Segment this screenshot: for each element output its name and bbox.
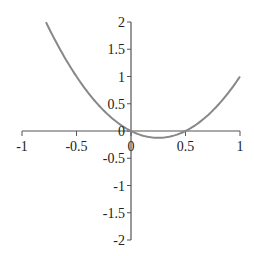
y-tick-label: 1.5: [108, 42, 126, 57]
curve-series: [46, 22, 240, 138]
x-tick-label: 0.5: [177, 139, 195, 154]
x-tick-label: 0: [128, 139, 135, 154]
series-line: [46, 22, 240, 138]
y-tick-label: 0: [118, 124, 125, 139]
y-tick-label: -1.5: [103, 206, 125, 221]
y-tick-label: -1: [113, 179, 125, 194]
x-tick-label: -0.5: [65, 139, 87, 154]
y-tick-label: 0.5: [108, 97, 126, 112]
y-tick-label: 1: [118, 70, 125, 85]
x-tick-label: -1: [16, 139, 28, 154]
y-tick-label: -0.5: [103, 151, 125, 166]
chart: -1-0.500.5121.510.50-0.5-1-1.5-2: [0, 0, 254, 256]
x-tick-label: 1: [237, 139, 244, 154]
y-tick-label: 2: [118, 15, 125, 30]
y-tick-label: -2: [113, 233, 125, 248]
